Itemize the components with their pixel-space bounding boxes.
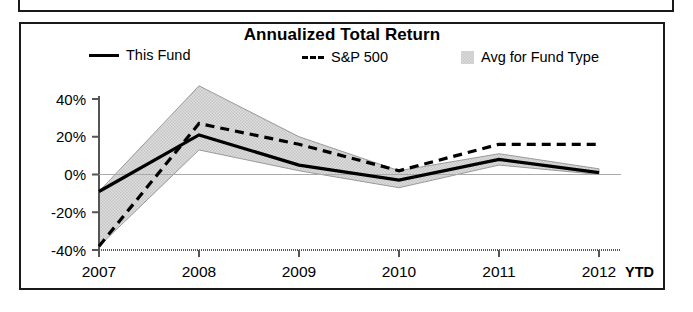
y-tick-label: 40% — [56, 91, 86, 108]
y-tick-label: -40% — [51, 242, 86, 259]
y-tick-label: 0% — [64, 166, 86, 183]
annualized-total-return-plot: 40%20%0%-20%-40%200720082009201020112012… — [21, 24, 667, 292]
plot-area: 40%20%0%-20%-40%200720082009201020112012… — [21, 24, 667, 292]
ytd-label: YTD — [625, 264, 654, 280]
y-tick-label: 20% — [56, 128, 86, 145]
x-tick-label: 2010 — [382, 263, 417, 280]
annualized-total-return-chart-card: Annualized Total Return This Fund S&P 50… — [19, 22, 665, 290]
avg-fund-type-band — [99, 86, 599, 246]
band-polygon — [99, 86, 599, 246]
page-top-partial-box — [18, 0, 674, 12]
y-tick-label: -20% — [51, 204, 86, 221]
x-tick-label: 2012 — [582, 263, 616, 280]
x-tick-label: 2007 — [82, 263, 116, 280]
x-tick-label: 2009 — [282, 263, 316, 280]
x-tick-label: 2011 — [482, 263, 515, 280]
x-tick-label: 2008 — [182, 263, 216, 280]
